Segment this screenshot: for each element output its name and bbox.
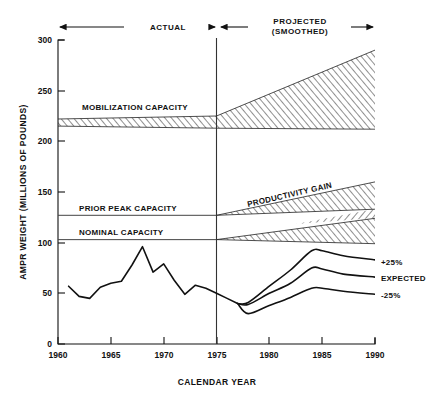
ytick-label-200: 200 <box>38 136 52 146</box>
xtick-label-1965: 1965 <box>102 350 121 360</box>
series-plus25-line-alt <box>238 249 375 304</box>
chart-container: ACTUAL PROJECTED (SMOOTHED) <box>0 0 446 408</box>
series-actual-line <box>69 247 238 304</box>
ytick-label-250: 250 <box>38 86 52 96</box>
period-header-projected: PROJECTED (SMOOTHED) <box>221 17 373 36</box>
xtick-label-1975: 1975 <box>208 350 227 360</box>
series-label-minus25: -25% <box>381 291 400 300</box>
mobilization-capacity-label: MOBILIZATION CAPACITY <box>82 103 188 112</box>
ampr-weight-chart: ACTUAL PROJECTED (SMOOTHED) <box>0 0 446 408</box>
prior-peak-capacity-label: PRIOR PEAK CAPACITY <box>79 204 177 213</box>
band-productivity-gain-upper <box>217 182 376 215</box>
actual-period-label: ACTUAL <box>150 23 186 32</box>
series-label-plus25: +25% <box>381 258 402 267</box>
ytick-label-50: 50 <box>43 288 53 298</box>
y-axis-title: AMPR WEIGHT (MILLIONS OF POUNDS) <box>18 104 28 280</box>
xtick-label-1985: 1985 <box>313 350 332 360</box>
projected-period-label-line2: (SMOOTHED) <box>272 27 329 36</box>
x-tick-labels: 1960 1965 1970 1975 1980 1985 1990 <box>49 350 385 360</box>
series-label-expected: EXPECTED <box>381 274 426 283</box>
projected-period-label-line1: PROJECTED <box>273 17 326 26</box>
band-productivity-gain-lower <box>217 218 376 243</box>
x-axis-title: CALENDAR YEAR <box>178 377 257 387</box>
ytick-label-300: 300 <box>38 35 52 45</box>
xtick-label-1960: 1960 <box>49 350 68 360</box>
nominal-capacity-label: NOMINAL CAPACITY <box>79 228 164 237</box>
ytick-label-0: 0 <box>47 339 52 349</box>
xtick-label-1970: 1970 <box>155 350 174 360</box>
ytick-label-100: 100 <box>38 238 52 248</box>
y-tick-labels: 300 250 200 150 100 50 0 <box>38 35 52 349</box>
period-header-actual: ACTUAL <box>60 23 215 32</box>
series-minus25-line <box>238 287 375 313</box>
ytick-label-150: 150 <box>38 187 52 197</box>
xtick-label-1980: 1980 <box>260 350 279 360</box>
series-expected-line <box>238 267 375 305</box>
xtick-label-1990: 1990 <box>366 350 385 360</box>
